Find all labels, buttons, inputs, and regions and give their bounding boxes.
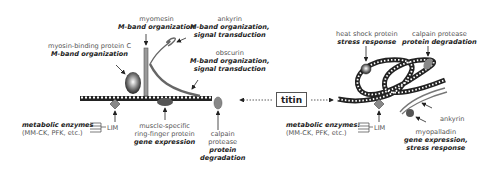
ankyrin-label-right: ankyrin	[440, 115, 464, 123]
titin-strand-straight	[80, 96, 212, 101]
murf-shape	[157, 98, 173, 106]
myomesin-label: myomesin M-band organization	[118, 15, 195, 31]
metabolic-label-right: metabolic enzymes: (MM-CK, PFK, etc.)	[286, 121, 360, 137]
myomesin-shape	[144, 48, 148, 96]
titin-label: titin	[276, 92, 307, 107]
obscurin-label: obscurin M-band organization, signal tra…	[190, 49, 270, 73]
ankyrin-label-left: ankyrin M-band organization, signal tran…	[190, 15, 270, 39]
myopalladin-label: myopalladin gene expression, stress resp…	[404, 128, 468, 152]
calpain-label-right: calpain protease protein degradation	[402, 30, 477, 46]
calpain-shape-left	[214, 97, 222, 109]
murf-label: muscle-specific ring-finger protein gene…	[134, 122, 195, 146]
lim-label-right: LIM	[374, 124, 385, 132]
myopalladin-shape	[406, 109, 414, 117]
mybpc-label: myosin-binding protein C M-band organiza…	[48, 42, 131, 58]
calpain-label-left: calpain protease protein degradation	[200, 130, 245, 162]
enzyme-bracket-right	[358, 123, 373, 132]
mybpc-shape	[125, 72, 141, 94]
lim-label-left: LIM	[107, 124, 118, 132]
metabolic-label-left: metabolic enzymes (MM-CK, PFK, etc.)	[22, 121, 94, 137]
ankyrin-shape	[150, 38, 175, 64]
hsp-shape	[361, 64, 371, 74]
hsp-label: heat shock protein stress response	[336, 30, 398, 46]
